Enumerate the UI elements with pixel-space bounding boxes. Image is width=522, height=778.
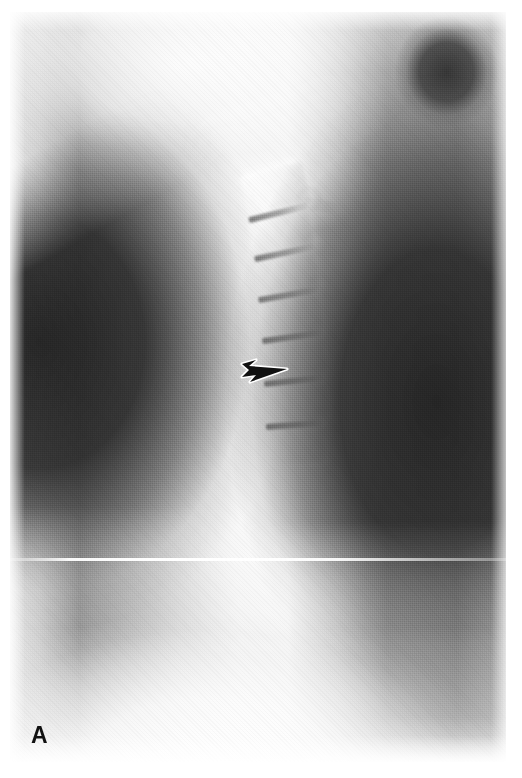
figure-root: A [0,0,522,778]
radiograph-image [10,12,506,762]
panel-label: A [31,724,48,747]
plate-vignette [10,12,506,762]
